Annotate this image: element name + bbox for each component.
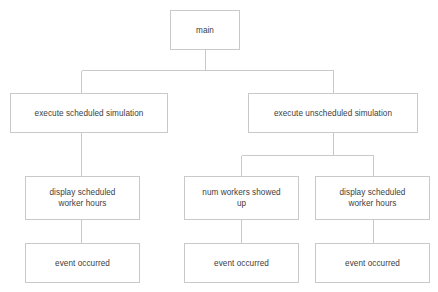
node-main-label: main — [196, 25, 214, 36]
node-num-workers-showed-up[interactable]: num workers showed up — [184, 176, 299, 220]
node-display-scheduled-worker-hours-left[interactable]: display scheduled worker hours — [25, 176, 140, 220]
node-event-occurred-middle-label: event occurred — [214, 258, 269, 269]
node-display-scheduled-worker-hours-left-label: display scheduled worker hours — [50, 187, 116, 209]
node-event-occurred-right[interactable]: event occurred — [315, 243, 430, 283]
flowchart-diagram: main execute scheduled simulation execut… — [0, 0, 438, 292]
node-event-occurred-right-label: event occurred — [345, 258, 400, 269]
node-num-workers-showed-up-label: num workers showed up — [202, 187, 280, 209]
node-execute-scheduled-simulation-label: execute scheduled simulation — [35, 108, 144, 119]
node-main[interactable]: main — [170, 10, 240, 50]
node-event-occurred-left[interactable]: event occurred — [25, 243, 140, 283]
node-display-scheduled-worker-hours-right[interactable]: display scheduled worker hours — [315, 176, 430, 220]
node-execute-scheduled-simulation[interactable]: execute scheduled simulation — [10, 93, 168, 133]
node-display-scheduled-worker-hours-right-label: display scheduled worker hours — [340, 187, 406, 209]
node-event-occurred-left-label: event occurred — [55, 258, 110, 269]
node-event-occurred-middle[interactable]: event occurred — [184, 243, 299, 283]
node-execute-unscheduled-simulation[interactable]: execute unscheduled simulation — [248, 93, 418, 133]
node-execute-unscheduled-simulation-label: execute unscheduled simulation — [274, 108, 392, 119]
